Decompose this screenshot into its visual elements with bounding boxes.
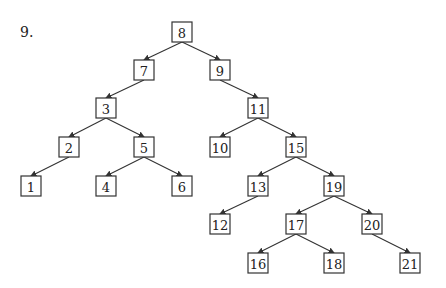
tree-node-13: 13	[248, 176, 268, 196]
tree-node-8: 8	[172, 22, 192, 42]
edge-3-2	[69, 118, 106, 137]
tree-node-5: 5	[134, 137, 154, 157]
node-label: 5	[140, 141, 148, 156]
edge-15-13	[258, 157, 296, 176]
tree-nodes: 8793112510151461319121720161821	[21, 22, 420, 273]
node-label: 9	[216, 64, 224, 79]
node-label: 16	[250, 257, 267, 272]
tree-node-2: 2	[59, 137, 79, 157]
edge-8-7	[144, 42, 182, 60]
edge-20-21	[372, 234, 410, 253]
edge-19-17	[296, 196, 334, 214]
node-label: 12	[212, 218, 229, 233]
node-label: 10	[212, 141, 229, 156]
node-label: 8	[178, 26, 186, 41]
tree-node-7: 7	[134, 60, 154, 80]
edge-17-18	[296, 234, 334, 253]
node-label: 19	[326, 180, 343, 195]
tree-node-19: 19	[324, 176, 344, 196]
edge-11-10	[220, 118, 258, 137]
node-label: 21	[402, 257, 419, 272]
node-label: 15	[288, 141, 305, 156]
tree-node-1: 1	[21, 176, 41, 196]
tree-node-6: 6	[172, 176, 192, 196]
node-label: 4	[102, 180, 110, 195]
node-label: 7	[140, 64, 148, 79]
edge-7-3	[106, 80, 144, 98]
edge-11-15	[258, 118, 296, 137]
edge-2-1	[31, 157, 69, 176]
binary-search-tree-diagram: 8793112510151461319121720161821	[0, 0, 446, 288]
edge-9-11	[220, 80, 258, 98]
edge-8-9	[182, 42, 220, 60]
tree-node-18: 18	[324, 253, 344, 273]
node-label: 20	[364, 218, 381, 233]
node-label: 17	[288, 218, 305, 233]
tree-node-9: 9	[210, 60, 230, 80]
node-label: 6	[178, 180, 186, 195]
edge-3-5	[106, 118, 144, 137]
tree-node-21: 21	[400, 253, 420, 273]
tree-node-10: 10	[210, 137, 230, 157]
tree-node-3: 3	[96, 98, 116, 118]
tree-node-17: 17	[286, 214, 306, 234]
node-label: 11	[250, 102, 267, 117]
tree-node-16: 16	[248, 253, 268, 273]
edge-15-19	[296, 157, 334, 176]
edge-5-4	[106, 157, 144, 176]
node-label: 2	[65, 141, 73, 156]
tree-node-4: 4	[96, 176, 116, 196]
node-label: 1	[27, 180, 35, 195]
edge-13-12	[220, 196, 258, 214]
edge-19-20	[334, 196, 372, 214]
edge-17-16	[258, 234, 296, 253]
tree-node-12: 12	[210, 214, 230, 234]
tree-node-20: 20	[362, 214, 382, 234]
edge-5-6	[144, 157, 182, 176]
tree-node-15: 15	[286, 137, 306, 157]
node-label: 13	[250, 180, 267, 195]
node-label: 18	[326, 257, 343, 272]
node-label: 3	[102, 102, 110, 117]
tree-node-11: 11	[248, 98, 268, 118]
